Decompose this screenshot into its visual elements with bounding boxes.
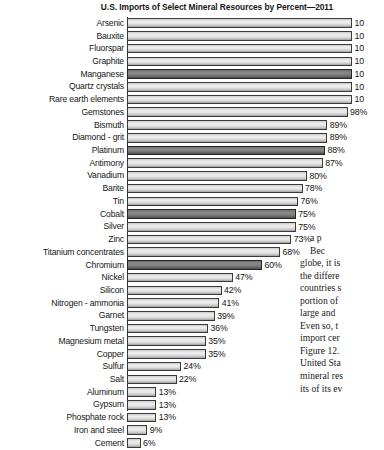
bar-category-label: Copper: [0, 349, 127, 360]
bar-row: Arsenic10: [0, 17, 384, 30]
bar-category-label: Rare earth elements: [0, 94, 127, 105]
bar-value-label: 36%: [208, 322, 228, 335]
bar-category-label: Arsenic: [0, 18, 127, 29]
body-text-line: Bec: [300, 245, 384, 258]
body-text-line: Figure 12.: [300, 345, 384, 358]
body-text-line: a p: [300, 232, 384, 245]
bar-category-label: Gemstones: [0, 107, 127, 118]
bar: [127, 57, 352, 67]
bar: [127, 375, 177, 385]
bar-category-label: Sulfur: [0, 361, 127, 372]
bar-row: Diamond - grit89%: [0, 131, 384, 144]
bar: [127, 260, 262, 270]
bar: [127, 387, 156, 397]
body-text-line: large and: [300, 307, 384, 320]
bar-value-label: 88%: [325, 144, 345, 157]
bar-category-label: Silicon: [0, 285, 127, 296]
bar-value-label: 89%: [327, 131, 347, 144]
bar-row: Bauxite10: [0, 30, 384, 43]
bar-value-label: 42%: [222, 284, 242, 297]
bar-category-label: Diamond - grit: [0, 132, 127, 143]
bar-category-label: Quartz crystals: [0, 81, 127, 92]
bar-category-label: Garnet: [0, 310, 127, 321]
bar-category-label: Gypsum: [0, 399, 127, 410]
bar: [127, 311, 215, 321]
bar: [127, 95, 352, 105]
bar-category-label: Tungsten: [0, 323, 127, 334]
bar-category-label: Graphite: [0, 56, 127, 67]
bar-category-label: Nickel: [0, 272, 127, 283]
bar-category-label: Tin: [0, 196, 127, 207]
bar: [127, 184, 303, 194]
bar-row: Vanadium80%: [0, 170, 384, 183]
bar-track: 10: [127, 93, 384, 106]
bar-row: Iron and steel9%: [0, 424, 384, 437]
bar-row: Cobalt75%: [0, 208, 384, 221]
bar: [127, 349, 206, 359]
bar-row: Rare earth elements10: [0, 93, 384, 106]
bar-row: Antimony87%: [0, 157, 384, 170]
bar-category-label: Aluminum: [0, 387, 127, 398]
bar-value-label: 10: [352, 17, 364, 30]
bar: [127, 120, 327, 130]
bar-value-label: 39%: [215, 310, 235, 323]
bar-category-label: Cobalt: [0, 209, 127, 220]
bar-track: 87%: [127, 157, 384, 170]
bar-value-label: 87%: [323, 157, 343, 170]
bar: [127, 235, 291, 245]
bar-value-label: 76%: [298, 195, 318, 208]
bar-category-label: Silver: [0, 221, 127, 232]
bar-row: Manganese10: [0, 68, 384, 81]
bar-category-label: Vanadium: [0, 170, 127, 181]
bar-category-label: Zinc: [0, 234, 127, 245]
bar-value-label: 10: [352, 42, 364, 55]
bar-value-label: 98%: [348, 106, 368, 119]
bar-value-label: 9%: [147, 424, 162, 437]
bar-category-label: Manganese: [0, 69, 127, 80]
body-text-line: import cer: [300, 332, 384, 345]
bar-row: Platinum88%: [0, 144, 384, 157]
bar-row: Tin76%: [0, 195, 384, 208]
body-text-line: mineral res: [300, 370, 384, 383]
body-text-line: countries s: [300, 282, 384, 295]
bar-category-label: Iron and steel: [0, 425, 127, 436]
body-text-line: the differe: [300, 270, 384, 283]
bar: [127, 209, 296, 219]
bar-value-label: 6%: [141, 437, 156, 450]
bar-track: 98%: [127, 106, 384, 119]
bar-value-label: 80%: [307, 170, 327, 183]
bar: [127, 31, 352, 41]
bar-track: 75%: [127, 208, 384, 221]
bar-value-label: 10: [352, 55, 364, 68]
bar: [127, 18, 352, 28]
body-text-column: a pBecglobe, it isthe differecountries s…: [300, 232, 384, 395]
bar: [127, 336, 206, 346]
bar-value-label: 10: [352, 30, 364, 43]
bar: [127, 133, 327, 143]
bar: [127, 107, 348, 117]
bar-track: 88%: [127, 144, 384, 157]
bar-category-label: Titanium concentrates: [0, 247, 127, 258]
bar-value-label: 75%: [296, 208, 316, 221]
bar-track: 13%: [127, 411, 384, 424]
bar-value-label: 10: [352, 81, 364, 94]
bar-value-label: 68%: [280, 246, 300, 259]
bar-value-label: 35%: [206, 348, 226, 361]
bar: [127, 425, 147, 435]
bar: [127, 362, 181, 372]
bar-track: 10: [127, 30, 384, 43]
bar-value-label: 13%: [156, 411, 176, 424]
bar-category-label: Antimony: [0, 158, 127, 169]
bar-track: 10: [127, 68, 384, 81]
bar-row: Cement6%: [0, 437, 384, 450]
body-text-line: globe, it is: [300, 257, 384, 270]
bar-value-label: 41%: [219, 297, 239, 310]
bar-track: 10: [127, 81, 384, 94]
body-text-line: United Sta: [300, 357, 384, 370]
bar-track: 89%: [127, 119, 384, 132]
bar-category-label: Nitrogen - ammonia: [0, 298, 127, 309]
bar-category-label: Magnesium metal: [0, 336, 127, 347]
bar: [127, 324, 208, 334]
bar-value-label: 13%: [156, 386, 176, 399]
